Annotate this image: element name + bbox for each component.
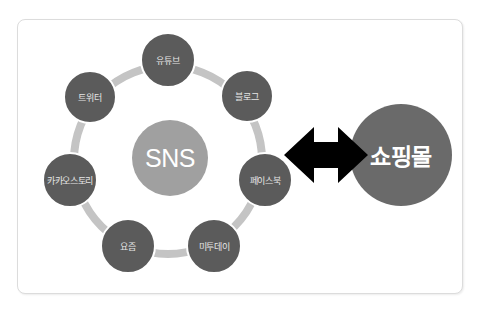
- node-yozm-label: 요즘: [120, 240, 135, 253]
- node-me2day-label: 미투데이: [199, 240, 230, 253]
- shopping-mall-label: 쇼핑몰: [370, 138, 432, 172]
- node-twitter-label: 트위터: [78, 91, 101, 104]
- node-facebook-label: 페이스북: [250, 174, 281, 187]
- node-blog-label: 블로그: [235, 90, 258, 103]
- node-kakaostory-label: 카카오스토리: [47, 174, 93, 187]
- sns-center-label: SNS: [145, 144, 195, 173]
- node-youtube-label: 유튜브: [156, 54, 179, 67]
